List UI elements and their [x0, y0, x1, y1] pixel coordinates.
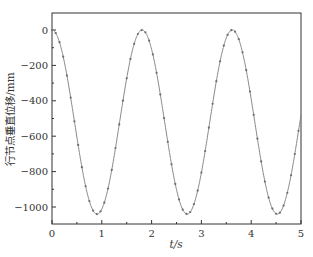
y-axis-label: 行节点垂直位移/mm [4, 72, 16, 165]
data-point-marker [275, 213, 277, 215]
data-point-marker [234, 31, 236, 33]
x-tick-label: 2 [148, 228, 154, 239]
data-point-marker [167, 141, 169, 143]
data-point-marker [62, 56, 64, 58]
data-point-marker [159, 93, 161, 95]
data-point-marker [55, 32, 57, 34]
data-point-marker [141, 29, 143, 31]
y-axis-ticks: 0−200−400−600−800−1000 [14, 25, 56, 213]
data-point-marker [122, 100, 124, 102]
data-point-marker [264, 180, 266, 182]
data-point-marker [133, 43, 135, 45]
x-tick-label: 0 [49, 228, 55, 239]
plot-frame [52, 13, 301, 224]
y-tick-label: 0 [42, 25, 48, 36]
data-point-marker [155, 72, 157, 74]
series-line [52, 30, 301, 214]
data-point-marker [294, 153, 296, 155]
data-point-marker [208, 127, 210, 129]
data-point-marker [226, 34, 228, 36]
data-point-marker [144, 31, 146, 33]
data-point-marker [215, 80, 217, 82]
data-point-marker [249, 90, 251, 92]
data-point-marker [96, 213, 98, 215]
data-point-marker [126, 77, 128, 79]
data-point-marker [66, 74, 68, 76]
data-series [51, 29, 301, 215]
data-point-marker [92, 209, 94, 211]
data-point-marker [193, 203, 195, 205]
data-point-marker [163, 117, 165, 119]
data-point-marker [58, 41, 60, 43]
y-tick-label: −600 [21, 131, 48, 142]
data-point-marker [212, 103, 214, 105]
data-point-marker [290, 174, 292, 176]
data-point-marker [99, 210, 101, 212]
data-point-marker [178, 198, 180, 200]
data-point-marker [297, 130, 299, 132]
data-point-marker [200, 171, 202, 173]
data-point-marker [271, 207, 273, 209]
data-point-marker [223, 44, 225, 46]
data-point-marker [148, 40, 150, 42]
data-point-marker [197, 190, 199, 192]
data-point-marker [118, 123, 120, 125]
x-axis-label: t/s [169, 238, 183, 250]
data-point-marker [174, 183, 176, 185]
data-point-marker [189, 211, 191, 213]
data-point-marker [182, 209, 184, 211]
data-point-marker [282, 204, 284, 206]
data-point-marker [85, 185, 87, 187]
data-point-marker [230, 29, 232, 31]
chart: 012345 0−200−400−600−800−1000 t/s 行节点垂直位… [0, 0, 313, 257]
y-tick-label: −200 [21, 60, 48, 71]
data-point-marker [77, 144, 79, 146]
data-point-marker [286, 192, 288, 194]
data-point-marker [129, 58, 131, 60]
axes-box [52, 13, 301, 224]
data-point-marker [253, 114, 255, 116]
data-point-marker [268, 197, 270, 199]
data-point-marker [70, 96, 72, 98]
y-tick-label: −400 [21, 95, 48, 106]
data-point-marker [241, 51, 243, 53]
data-point-marker [51, 29, 53, 31]
x-tick-label: 1 [99, 228, 105, 239]
data-point-marker [170, 163, 172, 165]
data-point-marker [256, 138, 258, 140]
data-point-marker [88, 200, 90, 202]
data-point-marker [279, 212, 281, 214]
data-point-marker [73, 120, 75, 122]
y-tick-label: −1000 [14, 202, 48, 213]
data-point-marker [185, 213, 187, 215]
data-point-marker [107, 187, 109, 189]
data-point-marker [137, 33, 139, 35]
x-tick-label: 3 [198, 228, 204, 239]
x-tick-label: 4 [248, 228, 254, 239]
x-axis-ticks: 012345 [49, 220, 304, 239]
data-point-marker [103, 202, 105, 204]
y-tick-label: −800 [21, 166, 48, 177]
data-point-marker [114, 147, 116, 149]
data-point-marker [204, 150, 206, 152]
data-point-marker [111, 169, 113, 171]
data-point-marker [238, 38, 240, 40]
data-point-marker [245, 69, 247, 71]
data-point-marker [81, 166, 83, 168]
data-point-marker [152, 53, 154, 55]
x-tick-label: 5 [298, 228, 304, 239]
data-point-marker [219, 60, 221, 62]
data-point-marker [260, 160, 262, 162]
